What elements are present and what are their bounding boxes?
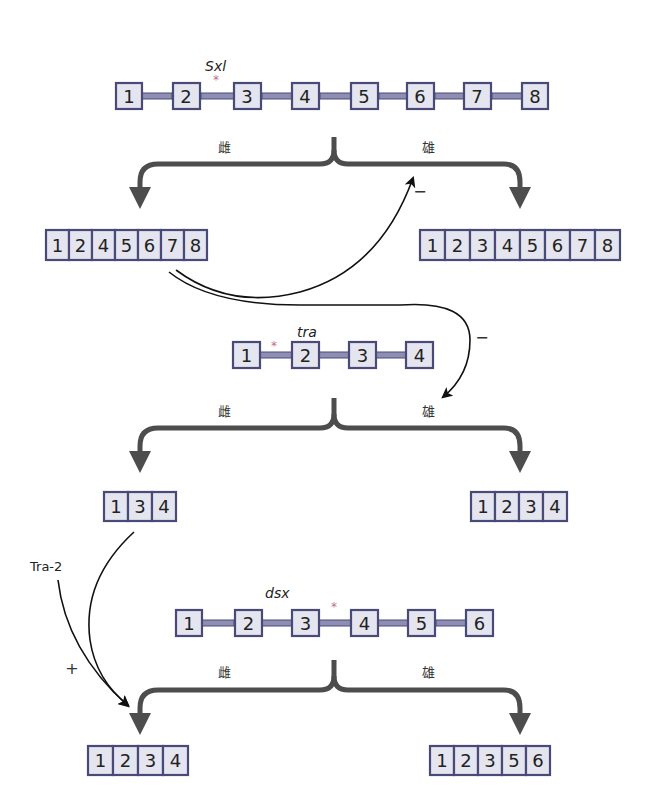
gene-label-tra: tra (297, 324, 317, 340)
svg-text:4: 4 (359, 613, 370, 634)
svg-text:4: 4 (170, 750, 181, 771)
svg-text:8: 8 (529, 86, 540, 107)
dsx-gene: dsx * 1 2 3 4 5 6 (176, 585, 493, 636)
sxl-gene: Sxl * 1 2 3 4 5 6 7 8 (116, 58, 548, 109)
tra-male-mrna: 1 2 3 4 (471, 492, 567, 521)
svg-text:3: 3 (477, 235, 488, 256)
exon: 1 (233, 342, 260, 368)
female-label: 雌 (218, 404, 231, 419)
exon: 4 (406, 342, 433, 368)
svg-text:1: 1 (110, 496, 121, 517)
dsx-splicing-arrows: 雌 雄 (140, 660, 520, 724)
svg-text:2: 2 (75, 235, 86, 256)
exon: 8 (522, 83, 548, 109)
male-label: 雄 (422, 140, 435, 155)
svg-text:2: 2 (452, 235, 463, 256)
stop-codon-star-icon: * (271, 339, 277, 353)
exon: 2 (235, 610, 262, 636)
svg-text:6: 6 (552, 235, 563, 256)
tra-gene: tra * 1 2 3 4 (233, 324, 433, 368)
tra2-label: Tra-2 (29, 559, 62, 574)
activation-sign: + (65, 659, 78, 678)
exon: 2 (173, 83, 200, 109)
gene-label-sxl: Sxl (205, 58, 226, 74)
svg-text:5: 5 (416, 613, 427, 634)
svg-text:8: 8 (602, 235, 613, 256)
svg-text:3: 3 (145, 750, 156, 771)
svg-text:8: 8 (190, 235, 201, 256)
exon: 6 (407, 83, 434, 109)
exon: 4 (351, 610, 378, 636)
dsx-female-mrna: 1 2 3 4 (88, 746, 188, 775)
exon: 5 (408, 610, 435, 636)
sxl-female-mrna: 1 2 4 5 6 7 8 (46, 230, 207, 260)
svg-text:4: 4 (299, 86, 310, 107)
svg-text:3: 3 (300, 613, 311, 634)
svg-text:1: 1 (427, 235, 438, 256)
sxl-regulation: − − (169, 178, 489, 397)
svg-text:2: 2 (120, 750, 131, 771)
exon: 3 (349, 342, 376, 368)
svg-text:6: 6 (144, 235, 155, 256)
tra-female-mrna: 1 3 4 (104, 492, 176, 521)
stop-codon-star-icon: * (331, 600, 337, 614)
svg-text:1: 1 (52, 235, 63, 256)
svg-text:3: 3 (484, 750, 495, 771)
svg-text:3: 3 (525, 496, 536, 517)
dsx-male-mrna: 1 2 3 5 6 (430, 746, 550, 775)
svg-text:5: 5 (121, 235, 132, 256)
exon: 1 (176, 610, 202, 636)
svg-text:4: 4 (414, 345, 425, 366)
tra-regulation: Tra-2 + (29, 532, 134, 706)
svg-text:1: 1 (183, 613, 194, 634)
female-label: 雌 (218, 140, 231, 155)
exon: 1 (116, 83, 142, 109)
svg-text:2: 2 (180, 86, 191, 107)
svg-text:5: 5 (527, 235, 538, 256)
svg-text:3: 3 (357, 345, 368, 366)
svg-text:4: 4 (502, 235, 513, 256)
svg-text:2: 2 (300, 345, 311, 366)
inhibition-sign: − (475, 328, 488, 347)
svg-text:6: 6 (532, 750, 543, 771)
gene-label-dsx: dsx (265, 585, 290, 601)
exon: 3 (234, 83, 261, 109)
stop-codon-star-icon: * (213, 73, 219, 87)
male-label: 雄 (422, 665, 435, 680)
sxl-male-mrna: 1 2 3 4 5 6 7 8 (420, 230, 620, 260)
exon: 5 (351, 83, 378, 109)
svg-text:1: 1 (123, 86, 134, 107)
svg-text:5: 5 (358, 86, 369, 107)
svg-text:5: 5 (508, 750, 519, 771)
svg-text:4: 4 (158, 496, 169, 517)
inhibition-sign: − (413, 182, 426, 201)
svg-text:6: 6 (474, 613, 485, 634)
female-label: 雌 (218, 665, 231, 680)
exon: 2 (292, 342, 319, 368)
svg-text:4: 4 (549, 496, 560, 517)
svg-text:7: 7 (577, 235, 588, 256)
svg-text:3: 3 (241, 86, 252, 107)
svg-text:2: 2 (243, 613, 254, 634)
svg-text:2: 2 (460, 750, 471, 771)
svg-text:4: 4 (98, 235, 109, 256)
exon: 4 (292, 83, 319, 109)
svg-text:1: 1 (241, 345, 252, 366)
svg-text:6: 6 (414, 86, 425, 107)
tra-splicing-arrows: 雌 雄 (140, 398, 520, 462)
svg-text:2: 2 (501, 496, 512, 517)
sxl-splicing-arrows: 雌 雄 (140, 137, 520, 198)
svg-text:7: 7 (471, 86, 482, 107)
svg-text:1: 1 (477, 496, 488, 517)
svg-text:3: 3 (134, 496, 145, 517)
tra-to-dsx-arrow (89, 532, 134, 705)
exon: 3 (292, 610, 319, 636)
sxl-autoregulation-arrow (176, 178, 413, 298)
male-label: 雄 (422, 404, 435, 419)
exon: 7 (464, 83, 491, 109)
tra2-to-dsx-arrow (58, 580, 128, 706)
svg-text:1: 1 (95, 750, 106, 771)
svg-text:7: 7 (167, 235, 178, 256)
sex-determination-splicing-diagram: Sxl * 1 2 3 4 5 6 7 8 雌 雄 1 2 (0, 0, 651, 808)
exon: 6 (466, 610, 493, 636)
